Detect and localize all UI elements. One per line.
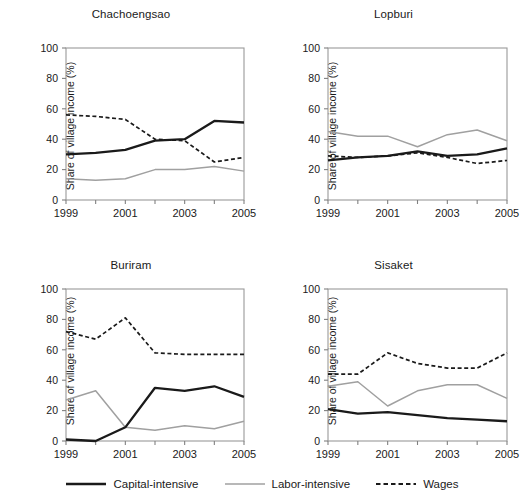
y-tick-label: 0 (52, 435, 58, 447)
plot-lopburi: 0204060801001999200120032005 (262, 0, 525, 251)
x-tick-label: 2001 (113, 448, 137, 460)
x-tick-label: 1999 (316, 448, 340, 460)
y-tick-label: 40 (308, 133, 320, 145)
x-tick-label: 2005 (495, 448, 519, 460)
plot-chachoengsao: 0204060801001999200120032005 (0, 0, 262, 251)
y-tick-label: 40 (46, 133, 58, 145)
x-tick-label: 2001 (375, 207, 399, 219)
series-line-wages (328, 353, 507, 374)
y-tick-label: 20 (46, 404, 58, 416)
y-tick-label: 60 (308, 103, 320, 115)
y-tick-label: 20 (46, 163, 58, 175)
y-tick-label: 80 (46, 72, 58, 84)
x-tick-label: 2003 (435, 207, 459, 219)
x-tick-label: 2001 (113, 207, 137, 219)
y-tick-label: 60 (46, 103, 58, 115)
panel-sisaket: Sisaket Share of village income (%) 0204… (262, 251, 525, 470)
y-tick-label: 60 (46, 344, 58, 356)
x-tick-label: 2001 (375, 448, 399, 460)
series-line-capital-intensive (328, 148, 507, 160)
legend-line-labor-intensive (225, 478, 265, 490)
plot-sisaket: 0204060801001999200120032005 (262, 251, 525, 470)
panel-chachoengsao: Chachoengsao Share of village income (%)… (0, 0, 262, 251)
legend-item-labor-intensive: Labor-intensive (225, 478, 351, 490)
y-tick-label: 100 (40, 42, 58, 54)
legend-item-wages: Wages (376, 478, 458, 490)
legend-label-capital-intensive: Capital-intensive (113, 478, 198, 490)
legend-line-capital-intensive (66, 478, 106, 490)
y-tick-label: 80 (308, 313, 320, 325)
y-tick-label: 40 (308, 374, 320, 386)
series-line-labor-intensive (328, 130, 507, 147)
x-tick-label: 2005 (232, 448, 256, 460)
x-tick-label: 1999 (54, 207, 78, 219)
series-line-capital-intensive (66, 121, 244, 154)
y-tick-label: 100 (40, 283, 58, 295)
y-tick-label: 100 (302, 283, 320, 295)
legend-line-wages (376, 478, 416, 490)
chart-legend: Capital-intensive Labor-intensive Wages (0, 470, 525, 498)
series-line-capital-intensive (66, 386, 244, 441)
y-tick-label: 0 (314, 194, 320, 206)
series-line-wages (66, 318, 244, 354)
panel-buriram: Buriram Share of village income (%) 0204… (0, 251, 262, 470)
series-line-labor-intensive (328, 382, 507, 406)
plot-buriram: 0204060801001999200120032005 (0, 251, 262, 470)
legend-label-labor-intensive: Labor-intensive (272, 478, 351, 490)
series-line-capital-intensive (328, 409, 507, 421)
x-tick-label: 2003 (172, 448, 196, 460)
y-tick-label: 0 (52, 194, 58, 206)
x-tick-label: 2005 (495, 207, 519, 219)
x-tick-label: 2003 (435, 448, 459, 460)
small-multiples-grid: Chachoengsao Share of village income (%)… (0, 0, 525, 470)
series-line-labor-intensive (66, 167, 244, 181)
y-tick-label: 40 (46, 374, 58, 386)
y-tick-label: 0 (314, 435, 320, 447)
x-tick-label: 1999 (54, 448, 78, 460)
series-line-labor-intensive (66, 391, 244, 431)
y-tick-label: 80 (46, 313, 58, 325)
y-tick-label: 80 (308, 72, 320, 84)
y-tick-label: 60 (308, 344, 320, 356)
x-tick-label: 1999 (316, 207, 340, 219)
panel-lopburi: Lopburi Share of village income (%) 0204… (262, 0, 525, 251)
y-tick-label: 20 (308, 404, 320, 416)
figure-panel-grid: Chachoengsao Share of village income (%)… (0, 0, 525, 502)
y-tick-label: 20 (308, 163, 320, 175)
x-tick-label: 2003 (172, 207, 196, 219)
legend-label-wages: Wages (423, 478, 458, 490)
x-tick-label: 2005 (232, 207, 256, 219)
y-tick-label: 100 (302, 42, 320, 54)
legend-item-capital-intensive: Capital-intensive (66, 478, 198, 490)
